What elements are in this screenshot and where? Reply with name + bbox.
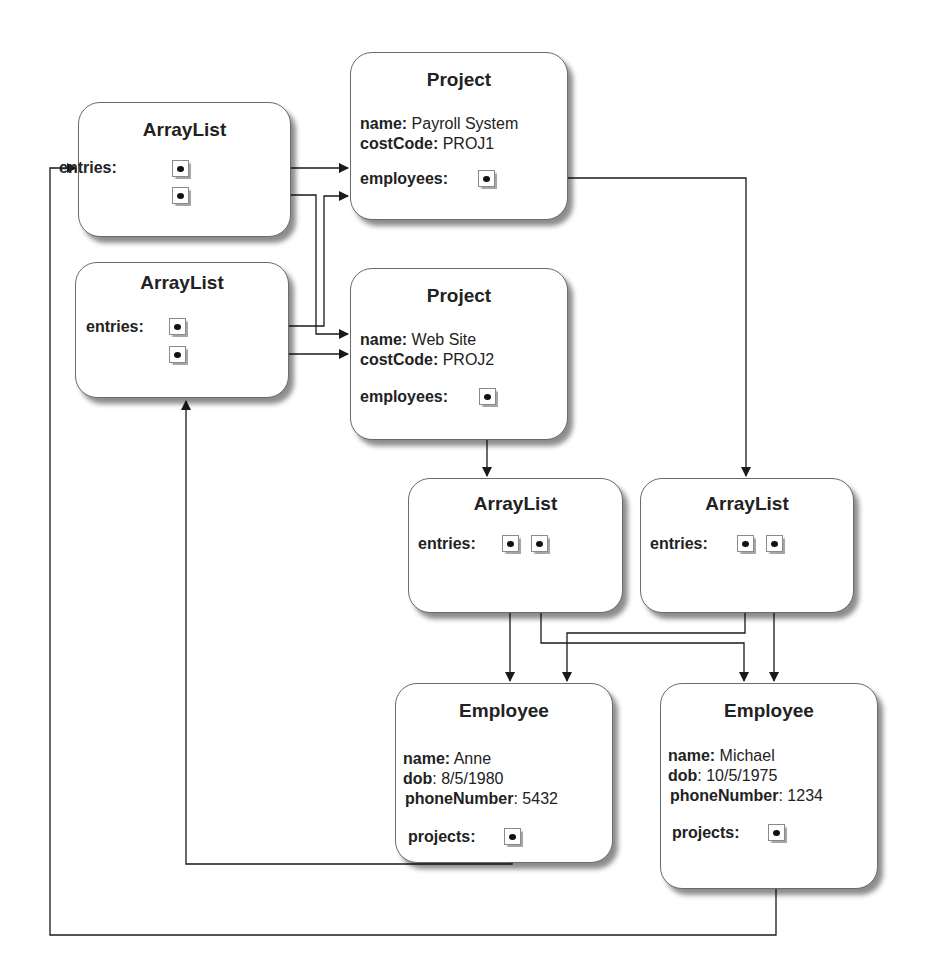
pointer-slot-projects[interactable] [768, 824, 785, 841]
pointer-slot-entry-1[interactable] [531, 535, 548, 552]
entries-label: entries: [86, 318, 144, 336]
name-field: name: Michael [668, 747, 775, 765]
costcode-field: costCode: PROJ2 [360, 351, 494, 369]
entries-label: entries: [650, 535, 708, 553]
name-field: name: Web Site [360, 331, 476, 349]
projects-label: projects: [408, 828, 476, 846]
phone-number-field: phoneNumber: 1234 [670, 787, 823, 805]
class-title: ArrayList [409, 493, 622, 515]
pointer-slot-entry-1[interactable] [766, 535, 783, 552]
employee-box-michael: Employee name: Michael dob: 10/5/1975 ph… [660, 683, 878, 889]
employees-label: employees: [360, 388, 448, 406]
projects-label: projects: [672, 824, 740, 842]
class-title: Employee [661, 700, 877, 722]
arraylist-box-a: ArrayList entries: [78, 102, 291, 237]
pointer-slot-entry-1[interactable] [172, 187, 189, 204]
pointer-slot-projects[interactable] [504, 828, 521, 845]
pointer-slot-employees[interactable] [478, 170, 495, 187]
phone-number-field: phoneNumber: 5432 [405, 790, 558, 808]
class-title: ArrayList [76, 272, 288, 294]
arraylist-box-b: ArrayList entries: [75, 262, 289, 398]
pointer-slot-entry-1[interactable] [169, 346, 186, 363]
employees-label: employees: [360, 170, 448, 188]
costcode-field: costCode: PROJ1 [360, 135, 494, 153]
project-box-payroll: Project name: Payroll System costCode: P… [350, 52, 568, 220]
dob-field: dob: 10/5/1975 [668, 767, 777, 785]
class-title: ArrayList [641, 493, 853, 515]
project-box-website: Project name: Web Site costCode: PROJ2 e… [350, 268, 568, 440]
class-title: Employee [396, 700, 612, 722]
name-field: name: Anne [403, 750, 491, 768]
arraylist-box-c: ArrayList entries: [408, 478, 623, 613]
entries-label: entries: [418, 535, 476, 553]
pointer-slot-entry-0[interactable] [172, 160, 189, 177]
class-title: ArrayList [79, 119, 290, 141]
class-title: Project [351, 285, 567, 307]
pointer-slot-entry-0[interactable] [169, 318, 186, 335]
name-field: name: Payroll System [360, 115, 518, 133]
dob-field: dob: 8/5/1980 [403, 770, 504, 788]
employee-box-anne: Employee name: Anne dob: 8/5/1980 phoneN… [395, 683, 613, 863]
entries-label: entries: [59, 159, 117, 177]
pointer-slot-entry-0[interactable] [502, 535, 519, 552]
arraylist-box-d: ArrayList entries: [640, 478, 854, 613]
class-title: Project [351, 69, 567, 91]
pointer-slot-entry-0[interactable] [737, 535, 754, 552]
pointer-slot-employees[interactable] [479, 388, 496, 405]
